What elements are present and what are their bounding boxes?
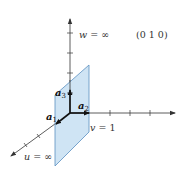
v-intercept-label: v = 1 — [90, 122, 115, 133]
crystal-plane — [55, 65, 89, 166]
miller-indices-label: (0 1 0) — [136, 29, 168, 40]
u-intercept-label: u = ∞ — [24, 151, 52, 162]
crystal-plane-diagram: w = ∞ (0 1 0) v = 1 u = ∞ a3 a2 a1 — [0, 0, 183, 176]
w-intercept-label: w = ∞ — [79, 29, 109, 40]
